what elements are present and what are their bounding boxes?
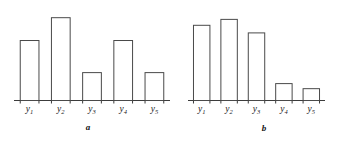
x-tick-label-y1: y1 bbox=[25, 104, 33, 116]
bar-a-y3 bbox=[83, 73, 102, 101]
x-tick-label-y2: y2 bbox=[56, 104, 65, 116]
bar-a-y5 bbox=[145, 73, 164, 101]
x-tick-label-y4: y4 bbox=[118, 104, 127, 116]
figure-canvas: y1y2y3y4y5a y1y2y3y4y5b bbox=[0, 0, 358, 143]
bar-b-y3 bbox=[248, 33, 264, 101]
x-tick-label-y3: y3 bbox=[252, 104, 261, 116]
x-tick-label-y5: y5 bbox=[307, 104, 316, 116]
x-tick-label-y5: y5 bbox=[150, 104, 159, 116]
bar-chart-figure: y1y2y3y4y5a y1y2y3y4y5b bbox=[0, 0, 358, 143]
x-tick-label-y4: y4 bbox=[279, 104, 288, 116]
bar-b-y1 bbox=[193, 25, 209, 100]
panel-caption-a: a bbox=[86, 122, 91, 132]
bar-a-y4 bbox=[114, 41, 133, 101]
bar-a-y2 bbox=[51, 18, 70, 101]
bar-b-y4 bbox=[276, 84, 292, 101]
chart-panel-a: y1y2y3y4y5a bbox=[14, 18, 170, 132]
chart-panel-b: y1y2y3y4y5b bbox=[188, 19, 325, 133]
x-tick-label-y3: y3 bbox=[87, 104, 96, 116]
bar-b-y5 bbox=[303, 89, 319, 101]
x-tick-label-y1: y1 bbox=[197, 104, 205, 116]
panel-caption-b: b bbox=[262, 123, 267, 133]
bar-a-y1 bbox=[20, 41, 39, 101]
bar-b-y2 bbox=[221, 19, 237, 100]
x-tick-label-y2: y2 bbox=[224, 104, 233, 116]
